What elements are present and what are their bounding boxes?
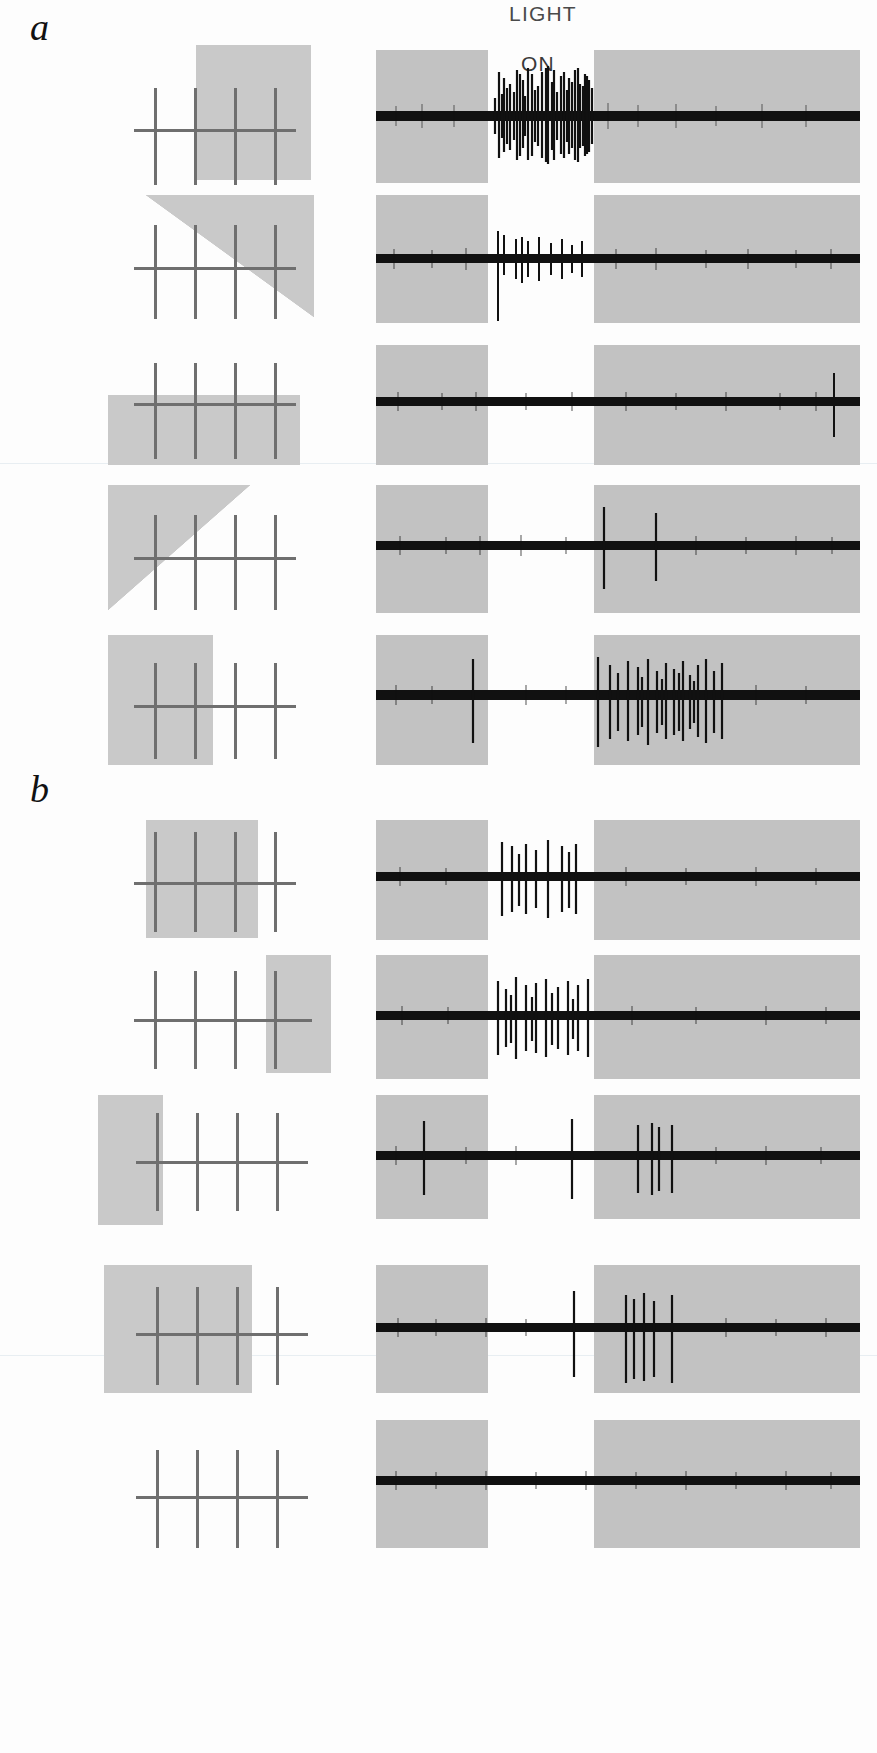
grid-vbar [234,663,237,759]
grid-hbar [136,1496,308,1499]
grid-vbar [194,225,197,319]
grid-vbar [196,1287,199,1385]
grid-hbar [134,267,296,270]
spike-trace [376,1420,860,1550]
grid-vbar [154,363,157,459]
trace-waveform [376,485,860,615]
grid-vbar [276,1287,279,1385]
grid-vbar [234,515,237,610]
panel-b-row-4 [0,1265,877,1405]
panel-letter-a: a [30,8,49,46]
grid-vbar [154,88,157,185]
trace-waveform [376,955,860,1081]
panel-b-row-3 [0,1095,877,1230]
spike-trace [376,1095,860,1221]
spike-trace [376,195,860,325]
trace-waveform [376,1265,860,1395]
trace-waveform [376,1420,860,1550]
trace-waveform [376,48,860,185]
grid-vbar [274,363,277,459]
grid-vbar [234,363,237,459]
grid-hbar [134,129,296,132]
light-header-title: LIGHT [509,2,577,26]
trace-waveform [376,635,860,767]
grid-vbar [274,515,277,610]
grid-vbar [194,88,197,185]
grid-vbar [154,225,157,319]
trace-waveform [376,195,860,325]
trace-waveform [376,345,860,467]
panel-a-row-3 [0,345,877,475]
grid-vbar [274,663,277,759]
panel-letter-b: b [30,770,49,808]
spike-trace [376,345,860,467]
grid-hbar [134,403,296,406]
stimulus-diagram [108,635,338,770]
shade-region [146,820,258,938]
grid-hbar [134,705,296,708]
shade-region [98,1095,163,1225]
grid-vbar [234,88,237,185]
panel-a-row-4 [0,485,877,625]
spike-trace [376,1265,860,1395]
shade-region [108,635,213,765]
grid-hbar [134,1019,312,1022]
grid-vbar [154,663,157,759]
grid-vbar [196,1450,199,1548]
shade-region [146,195,314,317]
stimulus-diagram [118,45,338,185]
stimulus-diagram [118,820,348,945]
stimulus-diagram [98,1095,348,1225]
grid-vbar [194,515,197,610]
panel-a-row-2 [0,195,877,330]
stimulus-diagram [118,955,348,1085]
grid-vbar [156,1287,159,1385]
grid-vbar [156,1450,159,1548]
grid-vbar [234,225,237,319]
figure-root: a b LIGHT OFF ON OFF [0,0,877,1753]
spike-trace [376,820,860,942]
panel-b-row-2 [0,955,877,1090]
grid-vbar [154,515,157,610]
grid-hbar [134,557,296,560]
spike-trace [376,635,860,767]
trace-waveform [376,820,860,942]
panel-a-row-1 [0,45,877,185]
spike-trace [376,48,860,185]
grid-hbar [136,1161,308,1164]
stimulus-diagram [98,1265,348,1400]
grid-vbar [194,363,197,459]
spike-trace [376,485,860,615]
grid-vbar [274,88,277,185]
shade-region [196,45,311,180]
shade-region [104,1265,252,1393]
trace-waveform [376,1095,860,1221]
grid-vbar [274,225,277,319]
grid-vbar [194,663,197,759]
panel-b-row-1 [0,820,877,950]
stimulus-diagram [98,1450,348,1560]
grid-hbar [136,1333,308,1336]
shade-region [108,485,250,610]
grid-vbar [236,1287,239,1385]
stimulus-diagram [108,485,338,620]
stimulus-diagram [118,195,338,325]
stimulus-diagram [108,345,338,470]
spike-trace [376,955,860,1081]
grid-hbar [134,882,296,885]
grid-vbar [276,1450,279,1548]
panel-b-row-5 [0,1420,877,1560]
grid-vbar [236,1450,239,1548]
panel-a-row-5 [0,635,877,775]
